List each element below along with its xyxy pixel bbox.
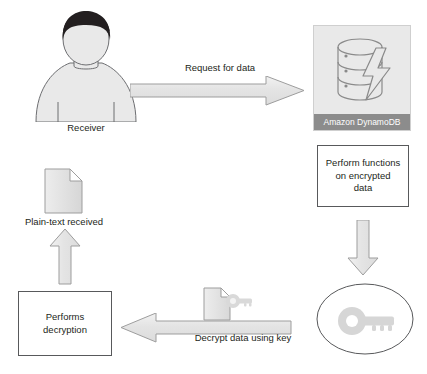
diagram-canvas: Receiver Request for data — [0, 0, 427, 374]
perform-functions-line3: data — [326, 182, 400, 195]
key-store-node[interactable] — [316, 283, 414, 355]
decrypt-arrow-label: Decrypt data using key — [178, 332, 308, 344]
receiver-label: Receiver — [26, 122, 146, 134]
performs-decryption-line2: decryption — [43, 324, 87, 337]
perform-functions-label: Perform functions on encrypted data — [326, 157, 400, 195]
plain-text-label: Plain-text received — [4, 216, 124, 228]
person-icon — [30, 10, 142, 122]
dynamodb-node[interactable]: Amazon DynamoDB — [313, 25, 411, 131]
process-down-arrow — [347, 220, 379, 276]
perform-functions-box[interactable]: Perform functions on encrypted data — [317, 145, 409, 207]
performs-decryption-line1: Performs — [43, 311, 87, 324]
performs-decryption-box[interactable]: Performs decryption — [18, 291, 112, 356]
database-lightning-icon — [330, 34, 396, 110]
return-up-arrow — [49, 228, 81, 285]
request-for-data-arrow — [130, 76, 305, 106]
performs-decryption-label: Performs decryption — [43, 311, 87, 336]
perform-functions-line1: Perform functions — [326, 157, 400, 170]
document-key-icon — [203, 287, 253, 321]
dynamodb-label: Amazon DynamoDB — [314, 114, 410, 130]
document-icon — [44, 168, 84, 214]
request-arrow-label: Request for data — [135, 62, 305, 74]
perform-functions-line2: on encrypted — [326, 170, 400, 183]
